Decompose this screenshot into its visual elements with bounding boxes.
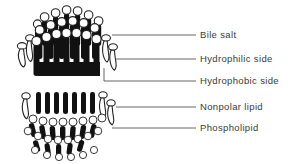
label-hydrophobic-side: Hydrophobic side xyxy=(200,75,279,86)
nonpolar-lipid-tail xyxy=(36,92,41,114)
tail-gap xyxy=(78,93,79,113)
nonpolar-lipid-core xyxy=(38,62,100,76)
hydrophilic-head xyxy=(90,146,97,153)
hydrophilic-head xyxy=(54,136,62,144)
nonpolar-lipid-tail xyxy=(90,92,95,114)
hydrophilic-head xyxy=(31,146,38,153)
tail-gap xyxy=(42,93,43,113)
hydrophilic-head xyxy=(64,136,72,144)
hydrophilic-head xyxy=(55,153,62,160)
nonpolar-lipid-tail xyxy=(81,92,86,114)
hydrophilic-head xyxy=(24,127,32,135)
hydrophilic-head xyxy=(39,117,47,125)
nonpolar-lipid-tail xyxy=(45,92,50,114)
hydrophilic-head xyxy=(98,114,106,122)
hydrophilic-head xyxy=(34,132,42,140)
tail-gap xyxy=(60,93,61,113)
nonpolar-lipid-tail xyxy=(54,92,59,114)
label-hydrophilic-side: Hydrophilic side xyxy=(200,53,273,64)
hydrophilic-head xyxy=(89,116,97,124)
nonpolar-lipid-tail xyxy=(72,92,77,114)
hydrophilic-head xyxy=(29,115,37,123)
hydrophilic-head xyxy=(43,151,50,158)
hydrophilic-head xyxy=(79,117,87,125)
hydrophilic-head xyxy=(49,118,57,126)
label-phospholipid: Phospholipid xyxy=(200,122,259,133)
hydrophilic-head xyxy=(94,127,102,135)
tail-gap xyxy=(51,93,52,113)
hydrophilic-head xyxy=(69,118,77,126)
hydrophilic-head xyxy=(59,118,67,126)
hydrophilic-head xyxy=(67,153,74,160)
nonpolar-lipid-tail xyxy=(63,92,68,114)
hydrophilic-head xyxy=(44,135,52,143)
hydrophilic-head xyxy=(79,151,86,158)
label-nonpolar-lipid: Nonpolar lipid xyxy=(200,101,263,112)
tail-gap xyxy=(69,93,70,113)
label-bile-salt: Bile salt xyxy=(200,29,236,40)
tail-gap xyxy=(87,93,88,113)
micelle-diagram: Bile salt Hydrophilic side Hydrophobic s… xyxy=(0,0,296,164)
hydrophilic-head xyxy=(84,132,92,140)
